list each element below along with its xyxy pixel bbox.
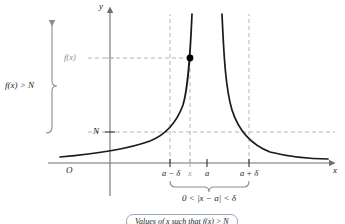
fx-value-label: f(x) xyxy=(64,53,76,62)
tick-label-x: x xyxy=(183,169,197,178)
limit-diagram-figure: y x O f(x) N f(x) > N a − δ x a a + δ 0 … xyxy=(0,0,345,224)
x-axis-label: x xyxy=(333,166,337,175)
condition-label: 0 < |x − a| < δ xyxy=(150,194,268,203)
vertical-brace xyxy=(46,21,57,133)
marked-point xyxy=(187,55,194,62)
brace-left-label: f(x) > N xyxy=(5,81,34,90)
y-axis-label: y xyxy=(99,2,103,11)
tick-label-a-plus-delta: a + δ xyxy=(230,169,268,178)
diagram-canvas xyxy=(0,0,345,224)
curve-left-branch xyxy=(60,14,192,157)
curve-right-branch xyxy=(222,14,328,159)
tick-label-a: a xyxy=(200,169,214,178)
n-value-label: N xyxy=(93,127,99,136)
caption-box: Values of x such that f(x) > N xyxy=(126,214,238,224)
horizontal-brace xyxy=(170,181,249,192)
origin-label: O xyxy=(66,166,73,175)
